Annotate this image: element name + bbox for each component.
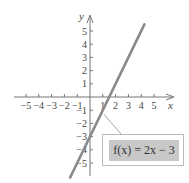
y-tick-label: 4	[82, 39, 87, 50]
y-tick-label: 3	[82, 52, 87, 63]
y-tick-label: −2	[76, 118, 87, 129]
y-tick-label: 2	[82, 65, 87, 76]
y-tick-label: 5	[82, 26, 87, 37]
annotation-leader-line	[104, 114, 121, 134]
x-tick-label: 5	[152, 100, 157, 111]
x-tick-label: −2	[59, 100, 70, 111]
function-label: f(x) = 2x − 3	[109, 140, 179, 161]
x-tick-label: 2	[113, 100, 118, 111]
y-tick-label: −1	[76, 105, 87, 116]
y-tick-label: 1	[82, 78, 87, 89]
function-label-box: f(x) = 2x − 3	[102, 134, 184, 166]
x-tick-label: −5	[21, 100, 32, 111]
chart: −5−4−3−2−11234554321−1−2−3−4−5xy f(x) = …	[0, 0, 189, 183]
x-axis-label: x	[167, 99, 173, 111]
x-tick-label: 4	[139, 100, 144, 111]
y-axis-label: y	[78, 10, 84, 22]
x-tick-label: −4	[33, 100, 44, 111]
y-tick-label: −3	[76, 131, 87, 142]
x-tick-label: −3	[46, 100, 57, 111]
x-tick-label: 3	[126, 100, 131, 111]
